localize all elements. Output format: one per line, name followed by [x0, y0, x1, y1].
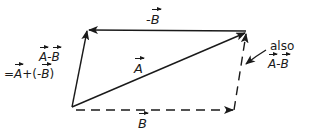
also-label-pointer-arrow — [246, 50, 266, 64]
label-also-b: B — [281, 58, 289, 70]
label-b: B — [138, 117, 147, 130]
label-left-equation: =A+(-B) — [4, 68, 54, 80]
label-left-equation-eq: = — [4, 67, 14, 81]
label-neg-b-letter: B — [151, 13, 160, 26]
vector-a-arrow — [72, 33, 245, 107]
label-left-equation-b: B — [41, 68, 49, 80]
label-neg-b: -B — [146, 13, 160, 26]
label-a: A — [134, 62, 143, 75]
label-left-equation-plus: +(- — [22, 67, 41, 81]
vector-neg-b-arrow — [89, 30, 246, 31]
label-also-difference: A-B — [268, 58, 289, 70]
label-also-word: also — [270, 40, 294, 52]
label-also-a: A — [268, 58, 276, 70]
label-b-letter: B — [138, 117, 147, 130]
label-left-difference-b: B — [52, 51, 60, 63]
vector-a-minus-b-left-arrow — [72, 31, 87, 107]
label-left-equation-a: A — [14, 68, 22, 80]
vector-a-minus-b-right-arrow — [234, 34, 246, 110]
label-left-equation-close: ) — [50, 67, 55, 81]
label-a-letter: A — [134, 62, 143, 75]
